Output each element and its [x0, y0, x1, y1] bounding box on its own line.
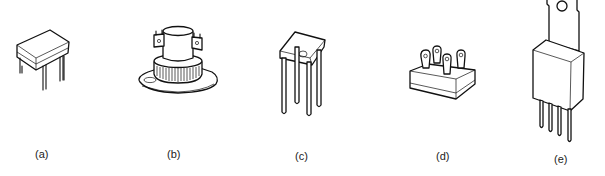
four-lead-package-drawing: [270, 0, 340, 140]
part-a-dip-package: [0, 0, 120, 140]
label-e: (e): [554, 153, 567, 165]
part-e-to220-package: [520, 0, 605, 150]
label-c: (c): [295, 150, 308, 162]
component-packages-figure: (a) (b) (c) (d) (e): [0, 0, 605, 176]
stud-mount-package-drawing: [120, 0, 230, 140]
label-a: (a): [35, 148, 48, 160]
part-d-bridge-module: [400, 0, 490, 140]
part-b-stud-mount-package: [120, 0, 230, 140]
dip-package-drawing: [0, 0, 120, 140]
bridge-module-drawing: [400, 0, 490, 140]
to220-package-drawing: [520, 0, 605, 150]
label-b: (b): [167, 148, 180, 160]
part-c-four-lead-package: [270, 0, 340, 140]
label-d: (d): [436, 150, 449, 162]
